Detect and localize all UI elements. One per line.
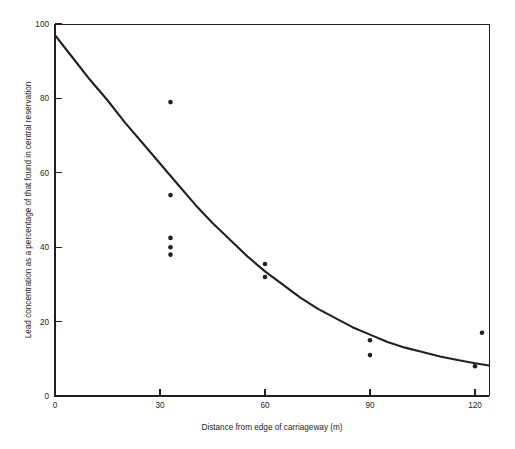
- data-point: [168, 193, 173, 198]
- y-tick-label-40: 40: [40, 243, 50, 252]
- scatter-chart: 100 80 60 40 20 0 0 30 60 90 120 Distanc…: [0, 0, 515, 449]
- y-tick-label-0: 0: [44, 392, 49, 401]
- x-tick-label-120: 120: [468, 401, 482, 410]
- data-point: [480, 330, 485, 335]
- data-points-group: [168, 100, 484, 369]
- x-tick-label-0: 0: [53, 401, 58, 410]
- x-axis-tick-labels: 0 30 60 90 120: [53, 401, 483, 410]
- x-tick-label-90: 90: [365, 401, 375, 410]
- data-point: [368, 338, 373, 343]
- data-point: [473, 364, 478, 369]
- data-point: [263, 275, 268, 280]
- x-tick-label-30: 30: [155, 401, 165, 410]
- x-axis-ticks: [55, 389, 475, 396]
- chart-figure: 100 80 60 40 20 0 0 30 60 90 120 Distanc…: [0, 0, 515, 449]
- data-point: [168, 245, 173, 250]
- y-axis-tick-labels: 100 80 60 40 20 0: [35, 20, 49, 401]
- plot-frame: [55, 24, 489, 396]
- y-axis-title: Lead concentration as a percentage of th…: [24, 81, 33, 338]
- axis-left-bottom: [55, 24, 489, 396]
- y-tick-label-100: 100: [35, 20, 49, 29]
- data-point: [168, 100, 173, 105]
- y-tick-label-80: 80: [40, 94, 50, 103]
- x-tick-label-60: 60: [260, 401, 270, 410]
- y-axis-ticks: [55, 24, 62, 396]
- data-point: [168, 252, 173, 257]
- fitted-decay-curve: [55, 35, 489, 365]
- x-axis-title: Distance from edge of carriageway (m): [201, 423, 342, 432]
- data-point: [168, 236, 173, 241]
- y-tick-label-60: 60: [40, 169, 50, 178]
- frame-top-right: [55, 24, 489, 396]
- data-point: [263, 262, 268, 267]
- y-tick-label-20: 20: [40, 318, 50, 327]
- data-point: [368, 353, 373, 358]
